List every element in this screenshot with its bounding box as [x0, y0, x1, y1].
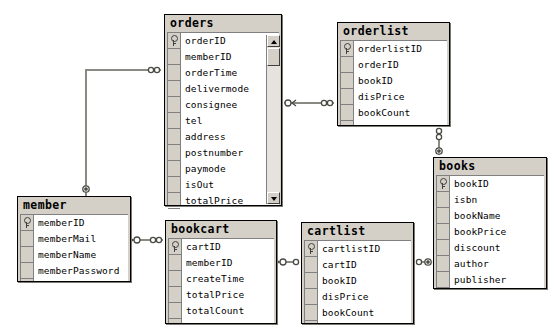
column-name[interactable]: bookName [450, 208, 544, 224]
column-name[interactable]: disPrice [354, 89, 447, 105]
row-selector-cell[interactable] [341, 89, 353, 105]
primary-key-icon-cell[interactable] [341, 41, 353, 57]
column-name[interactable]: memberID [182, 255, 274, 271]
column-name[interactable]: paymode [181, 161, 265, 177]
column-name[interactable]: cartlistID [318, 241, 411, 257]
column-name[interactable]: memberID [181, 49, 265, 65]
column-name[interactable]: bookID [450, 176, 544, 192]
row-selector-cell[interactable] [168, 161, 180, 177]
row-selector-cell[interactable] [168, 193, 180, 209]
row-selector-cell[interactable] [437, 256, 449, 272]
scroll-up-arrow[interactable] [267, 35, 280, 47]
row-selector-cell[interactable] [437, 208, 449, 224]
vertical-scrollbar[interactable] [266, 35, 279, 204]
scrollbar-thumb[interactable] [267, 48, 280, 66]
column-name[interactable]: memberPassword [34, 263, 128, 279]
scrollbar-track[interactable] [267, 47, 280, 192]
row-selector-cell[interactable] [21, 247, 33, 263]
row-selector-cell[interactable] [305, 289, 317, 305]
column-name[interactable]: address [181, 129, 265, 145]
row-selector-cell[interactable] [168, 177, 180, 193]
key-icon [172, 241, 179, 252]
column-name[interactable]: bookCount [318, 305, 411, 321]
column-name[interactable]: memberID [34, 215, 128, 231]
column-name[interactable]: orderID [354, 57, 447, 73]
row-selector-cell[interactable] [168, 113, 180, 129]
row-selector-cell[interactable] [168, 65, 180, 81]
row-selector-cell[interactable] [169, 303, 181, 319]
row-selector-cell[interactable] [341, 57, 353, 73]
column-name[interactable]: bookID [354, 73, 447, 89]
column-name[interactable]: orderTime [181, 65, 265, 81]
row-selector-cell[interactable] [437, 224, 449, 240]
entity-table-member[interactable]: membermemberIDmemberMailmemberNamemember… [17, 196, 131, 282]
column-list: memberIDmemberMailmemberNamememberPasswo… [34, 215, 128, 281]
column-name[interactable]: isOut [181, 177, 265, 193]
row-selector-cell[interactable] [169, 271, 181, 287]
column-name[interactable]: bookID [318, 273, 411, 289]
entity-table-bookcart[interactable]: bookcartcartIDmemberIDcreateTimetotalPri… [165, 220, 277, 324]
row-selector-cell[interactable] [168, 49, 180, 65]
row-selector-cell[interactable] [21, 263, 33, 279]
column-grid: cartlistIDcartIDbookIDdisPricebookCount [304, 240, 411, 323]
entity-table-cartlist[interactable]: cartlistcartlistIDcartIDbookIDdisPricebo… [301, 222, 414, 324]
entity-table-title: orders [165, 15, 281, 32]
column-name[interactable]: delivermode [181, 81, 265, 97]
column-name[interactable]: orderlistID [354, 41, 447, 57]
row-selector-cell[interactable] [168, 97, 180, 113]
column-name[interactable]: bookCount [354, 105, 447, 121]
column-name[interactable]: discount [450, 240, 544, 256]
column-name[interactable]: cartID [182, 239, 274, 255]
primary-key-icon-cell[interactable] [168, 33, 180, 49]
column-name[interactable]: publisher [450, 272, 544, 288]
column-name[interactable]: totalPrice [181, 193, 265, 205]
column-name[interactable]: totalPrice [182, 287, 274, 303]
row-selector-gutter [168, 33, 181, 205]
scroll-down-arrow[interactable] [267, 192, 280, 204]
entity-table-title: books [434, 158, 546, 175]
key-icon [24, 217, 31, 228]
primary-key-icon-cell[interactable] [437, 176, 449, 192]
row-selector-cell[interactable] [169, 255, 181, 271]
column-name[interactable]: isbn [450, 192, 544, 208]
row-selector-gutter [305, 241, 318, 323]
column-grid: orderlistIDorderIDbookIDdisPricebookCoun… [340, 40, 447, 125]
column-name[interactable]: postnumber [181, 145, 265, 161]
column-name[interactable]: tel [181, 113, 265, 129]
column-name[interactable]: bookPrice [450, 224, 544, 240]
column-name[interactable]: totalCount [182, 303, 274, 319]
row-selector-cell[interactable] [169, 287, 181, 303]
row-selector-cell[interactable] [305, 257, 317, 273]
entity-table-books[interactable]: booksbookIDisbnbookNamebookPricediscount… [433, 157, 547, 289]
column-name[interactable]: consignee [181, 97, 265, 113]
column-list: cartIDmemberIDcreateTimetotalPricetotalC… [182, 239, 274, 323]
column-name[interactable]: memberName [34, 247, 128, 263]
primary-key-icon-cell[interactable] [21, 215, 33, 231]
entity-table-title: orderlist [338, 23, 449, 40]
row-selector-cell[interactable] [341, 105, 353, 121]
row-selector-gutter [21, 215, 34, 281]
column-name[interactable]: author [450, 256, 544, 272]
column-name[interactable]: cartID [318, 257, 411, 273]
row-selector-cell[interactable] [168, 81, 180, 97]
er-diagram-canvas: ordersorderIDmemberIDorderTimedelivermod… [0, 0, 558, 328]
row-selector-cell[interactable] [21, 231, 33, 247]
primary-key-icon-cell[interactable] [169, 239, 181, 255]
entity-table-title: member [18, 197, 130, 214]
column-name[interactable]: createTime [182, 271, 274, 287]
column-grid: orderIDmemberIDorderTimedelivermodeconsi… [167, 32, 279, 205]
column-name[interactable]: orderID [181, 33, 265, 49]
column-name[interactable]: memberMail [34, 231, 128, 247]
row-selector-cell[interactable] [168, 145, 180, 161]
row-selector-cell[interactable] [305, 273, 317, 289]
primary-key-icon-cell[interactable] [305, 241, 317, 257]
row-selector-cell[interactable] [437, 240, 449, 256]
row-selector-cell[interactable] [305, 305, 317, 321]
row-selector-cell[interactable] [437, 192, 449, 208]
entity-table-orderlist[interactable]: orderlistorderlistIDorderIDbookIDdisPric… [337, 22, 450, 126]
row-selector-cell[interactable] [168, 129, 180, 145]
entity-table-orders[interactable]: ordersorderIDmemberIDorderTimedelivermod… [164, 14, 282, 206]
column-name[interactable]: disPrice [318, 289, 411, 305]
row-selector-cell[interactable] [341, 73, 353, 89]
row-selector-cell[interactable] [437, 272, 449, 288]
